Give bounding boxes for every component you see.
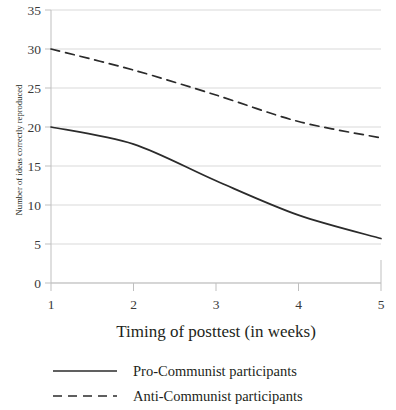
line-chart-figure: 35 30 25 20 15 10 5 0 1 2 3 4 5: [0, 0, 396, 410]
x-tick-label-1: 1: [48, 297, 55, 312]
legend-label-anti-communist: Anti-Communist participants: [133, 388, 303, 404]
legend-label-pro-communist: Pro-Communist participants: [133, 363, 297, 379]
y-tick-label-10: 10: [28, 198, 42, 213]
y-tick-label-0: 0: [34, 276, 41, 291]
y-axis-title: Number of ideas correctly reproduced: [14, 84, 24, 215]
y-tick-label-5: 5: [34, 237, 41, 252]
x-tick-label-4: 4: [295, 297, 302, 312]
chart-canvas: 35 30 25 20 15 10 5 0 1 2 3 4 5: [0, 0, 396, 410]
y-tick-label-35: 35: [28, 3, 42, 18]
x-tick-label-3: 3: [213, 297, 220, 312]
y-tick-label-30: 30: [28, 42, 42, 57]
x-tick-label-5: 5: [378, 297, 385, 312]
y-tick-label-20: 20: [28, 120, 42, 135]
x-axis-title: Timing of posttest (in weeks): [116, 322, 316, 341]
y-tick-label-15: 15: [28, 159, 42, 174]
x-tick-label-2: 2: [130, 297, 137, 312]
y-tick-label-25: 25: [28, 81, 42, 96]
